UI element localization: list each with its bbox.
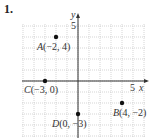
- point-a: [54, 35, 58, 39]
- coordinate-plane: y55x A(−2, 4)B(4, −2)C(−3, 0)D(0, −3): [0, 0, 153, 138]
- x-tick-label: 5: [130, 82, 135, 93]
- point-label-d: D(0, −3): [51, 118, 87, 130]
- point-d: [76, 112, 80, 116]
- point-b: [120, 101, 124, 105]
- x-axis-arrow-icon: [144, 79, 149, 83]
- data-points: A(−2, 4)B(4, −2)C(−3, 0)D(0, −3): [24, 35, 146, 130]
- y-axis-label: y: [70, 9, 76, 20]
- point-label-c: C(−3, 0): [24, 84, 58, 96]
- point-label-a: A(−2, 4): [36, 41, 70, 53]
- point-label-b: B(4, −2): [113, 107, 146, 119]
- y-tick-label: 5: [71, 20, 76, 31]
- point-c: [43, 79, 47, 83]
- x-axis-label: x: [138, 82, 144, 93]
- y-axis-arrow-icon: [76, 13, 80, 18]
